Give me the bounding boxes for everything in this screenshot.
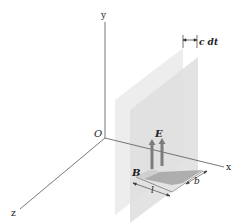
z-axis-label: z: [11, 208, 16, 218]
y-axis-label: y: [100, 10, 107, 20]
separation-marker: [183, 35, 197, 48]
x-axis-label: x: [226, 162, 231, 172]
width-label: b: [194, 176, 200, 186]
b-field-label: B: [131, 167, 140, 178]
e-field-label: E: [154, 128, 163, 139]
length-label: l: [151, 185, 154, 195]
z-axis: [20, 138, 105, 209]
origin-label: O: [94, 128, 102, 139]
separation-label: c dt: [199, 37, 219, 47]
wave-diagram: y z x O c dt E B l b: [0, 0, 242, 223]
